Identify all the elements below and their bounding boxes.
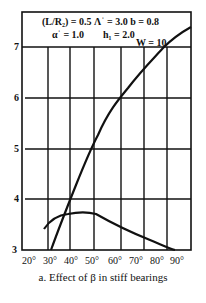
- figure-caption: a. Effect of β in stiff bearings: [0, 271, 206, 283]
- x-tick-20: 20°: [22, 255, 36, 266]
- parameter-alpha: αˈ = 1.0: [52, 29, 84, 40]
- x-tick-30: 30°: [43, 255, 57, 266]
- x-tick-90: 90°: [170, 255, 184, 266]
- y-tick-3: 3: [3, 244, 17, 255]
- y-tick-6: 6: [5, 92, 19, 103]
- y-tick-4: 4: [5, 193, 19, 204]
- x-tick-70: 70°: [129, 255, 143, 266]
- parameter-h1: h₁ = 2.0: [103, 29, 135, 40]
- parameter-line-1: (L/R₂) = 0.5 Λˈ = 3.0 b = 0.8: [42, 16, 159, 27]
- y-tick-5: 5: [5, 143, 19, 154]
- y-tick-7: 7: [5, 41, 19, 52]
- x-tick-80: 80°: [150, 255, 164, 266]
- curve-label-w10: W = 10: [136, 37, 167, 48]
- x-tick-50: 50°: [85, 255, 99, 266]
- x-tick-40: 40°: [64, 255, 78, 266]
- x-tick-60: 60°: [108, 255, 122, 266]
